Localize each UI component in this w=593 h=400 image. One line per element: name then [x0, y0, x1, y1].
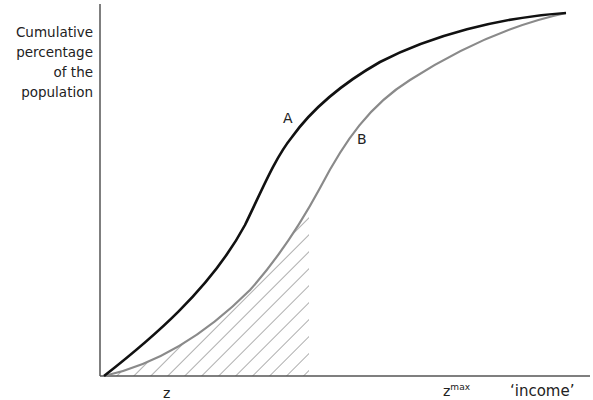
zmax-tick-label: zmax [443, 382, 470, 399]
z-tick-label: z [163, 385, 170, 400]
curve-b-label: B [357, 131, 367, 147]
curve-a-label: A [283, 110, 293, 126]
curve-b [104, 13, 566, 376]
diagram-canvas [0, 0, 593, 400]
x-axis-label: ‘income’ [510, 382, 574, 400]
shaded-region [104, 188, 320, 376]
curve-a [104, 13, 566, 376]
zmax-sup: max [450, 382, 470, 392]
